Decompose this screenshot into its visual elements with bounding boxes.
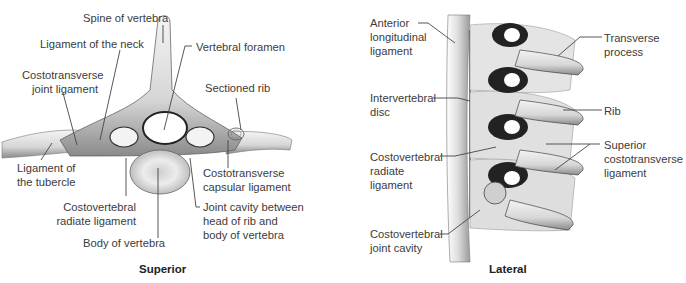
label-costotransverse-capsular-ligament: Costotransverse capsular ligament xyxy=(203,166,291,194)
label-joint-cavity: Joint cavity between head of rib and bod… xyxy=(203,200,304,242)
label-ligament-of-the-tubercle: Ligament of the tubercle xyxy=(17,161,75,189)
label-superior-costotransverse-ligament: Superior costotransverse ligament xyxy=(604,138,683,180)
caption-superior: Superior xyxy=(139,263,186,275)
label-costovertebral-radiate-ligament: Costovertebral radiate ligament xyxy=(52,200,136,228)
label-spine-of-vertebra: Spine of vertebra xyxy=(83,11,168,25)
label-transverse-process: Transverse process xyxy=(604,31,660,59)
label-vertebral-foramen: Vertebral foramen xyxy=(196,40,285,54)
label-costotransverse-joint-ligament: Costotransverse joint ligament xyxy=(22,68,98,96)
label-sectioned-rib: Sectioned rib xyxy=(205,81,270,95)
label-rib: Rib xyxy=(604,104,621,118)
label-anterior-longitudinal-ligament: Anterior longitudinal ligament xyxy=(370,16,427,58)
caption-lateral: Lateral xyxy=(489,263,527,275)
label-body-of-vertebra: Body of vertebra xyxy=(83,236,165,250)
label-costovertebral-radiate-ligament-lateral: Costovertebral radiate ligament xyxy=(370,150,443,192)
label-costovertebral-joint-cavity: Costovertebral joint cavity xyxy=(370,227,443,255)
label-intervertebral-disc: Intervertebral disc xyxy=(370,91,436,119)
label-ligament-of-the-neck: Ligament of the neck xyxy=(40,37,144,51)
